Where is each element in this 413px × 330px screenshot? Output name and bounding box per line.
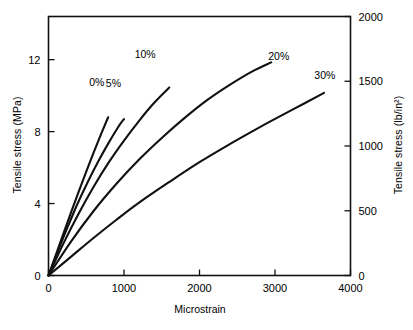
x-tick-label: 2000: [187, 282, 211, 294]
y-tick-label-left: 12: [28, 54, 40, 66]
x-tick-label: 1000: [112, 282, 136, 294]
y-tick-label-right: 1000: [359, 140, 383, 152]
x-tick-label: 3000: [263, 282, 287, 294]
y-axis-ticks-left: 04812: [28, 54, 54, 282]
curve-label-20pct: 20%: [268, 50, 289, 62]
tensile-stress-strain-chart: Tensile stress (MPa) Tensile stress (lb/…: [0, 0, 413, 330]
y-tick-label-right: 1500: [359, 75, 383, 87]
x-tick-label: 0: [45, 282, 51, 294]
y-tick-label-left: 0: [34, 270, 40, 282]
y-tick-label-right: 0: [359, 270, 365, 282]
curve-labels: 0%5%10%20%30%: [89, 48, 335, 89]
x-tick-label: 4000: [338, 282, 362, 294]
curve-label-30pct: 30%: [314, 69, 335, 81]
y-tick-label-left: 4: [34, 198, 40, 210]
curve-30pct: [49, 93, 325, 276]
curve-20pct: [49, 62, 272, 275]
x-axis-label: Microstrain: [0, 303, 400, 315]
curve-label-0pct: 0%: [89, 76, 104, 88]
y-tick-label-right: 2000: [359, 11, 383, 23]
curve-label-10pct: 10%: [135, 48, 156, 60]
curve-label-5pct: 5%: [106, 77, 121, 89]
x-axis-ticks: 01000200030004000: [45, 270, 362, 294]
plot-area: 01000200030004000 04812 0500100015002000…: [0, 0, 413, 330]
y-tick-label-right: 500: [359, 205, 377, 217]
data-curves: [49, 62, 325, 275]
y-tick-label-left: 8: [34, 126, 40, 138]
